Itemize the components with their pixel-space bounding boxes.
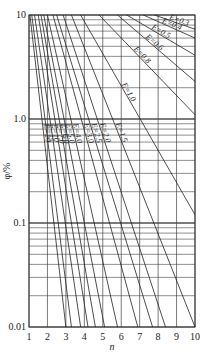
series-line [57,15,153,327]
svg-text:1: 1 [27,331,32,342]
svg-text:0.1: 0.1 [14,217,27,228]
series-line [99,15,195,115]
svg-text:10: 10 [16,9,26,20]
svg-text:8: 8 [156,331,161,342]
svg-text:4: 4 [82,331,87,342]
svg-text:7: 7 [137,331,142,342]
svg-text:E=20: E=20 [41,122,52,142]
y-axis-label: φ/% [1,163,12,180]
svg-text:3: 3 [63,331,68,342]
svg-text:2: 2 [45,331,50,342]
svg-text:6: 6 [119,331,124,342]
svg-text:0.01: 0.01 [9,321,27,332]
svg-text:E=1.0: E=1.0 [119,80,137,103]
series-line [30,15,66,327]
svg-text:10: 10 [190,331,200,342]
series-line [41,15,95,327]
x-axis-label: n [110,341,115,352]
data-lines [30,15,195,327]
svg-text:E=0.8: E=0.8 [131,44,152,66]
series-line [63,15,165,327]
svg-text:5: 5 [100,331,105,342]
svg-text:1.0: 1.0 [14,113,27,124]
svg-text:9: 9 [174,331,179,342]
series-line [38,15,88,327]
chart: 123456789100.010.11.010 E=0.3E=0.4E=0.5E… [0,0,204,360]
